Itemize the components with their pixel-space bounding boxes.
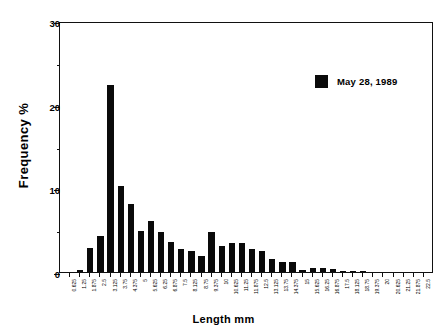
bar	[249, 249, 255, 272]
bar	[279, 262, 285, 272]
bar	[138, 231, 144, 272]
x-axis-tick-label: 22.5	[425, 279, 431, 289]
bar	[229, 243, 235, 272]
bar	[148, 221, 154, 272]
x-axis-tick-label: 15.625	[314, 279, 320, 294]
legend: May 28, 1989	[315, 75, 398, 88]
x-axis-tick	[312, 273, 313, 277]
x-axis-tick	[89, 273, 90, 277]
x-axis-tick	[352, 273, 353, 277]
x-axis-tick-label: 7.5	[182, 279, 188, 286]
x-axis-tick	[332, 273, 333, 277]
x-axis-tick-label: 0.625	[71, 279, 77, 292]
plot-area: 0102030 May 28, 1989	[59, 22, 433, 273]
bar	[208, 232, 214, 272]
x-axis-tick-label: 8.75	[203, 279, 209, 289]
x-axis-tick	[231, 273, 232, 277]
x-axis-tick	[79, 273, 80, 277]
x-axis-tick	[69, 273, 70, 277]
bar	[350, 271, 356, 272]
x-axis-tick	[403, 273, 404, 277]
x-axis-tick	[271, 273, 272, 277]
bar	[299, 270, 305, 273]
x-axis-tick-label: 11.875	[253, 279, 259, 294]
y-axis-tick-label: 20	[49, 101, 60, 112]
x-axis-tick-label: 12.5	[263, 279, 269, 289]
x-axis-tick-label: 6.875	[172, 279, 178, 292]
x-axis-tick	[342, 273, 343, 277]
y-axis-title-text: Frequency	[17, 118, 32, 187]
y-axis-tick-label: 10	[49, 185, 60, 196]
x-axis-tick-label: 1.25	[81, 279, 87, 289]
x-axis-tick-label: 18.75	[364, 279, 370, 292]
x-axis-tick	[180, 273, 181, 277]
x-axis-tick-label: 16.25	[324, 279, 330, 292]
x-axis-tick-label: 20	[384, 279, 390, 285]
x-axis-tick	[201, 273, 202, 277]
legend-swatch-icon	[315, 75, 328, 88]
x-axis-tick	[261, 273, 262, 277]
bar	[259, 251, 265, 272]
bar-series-may-28-1989	[60, 23, 432, 272]
x-axis-tick-label: 16.875	[334, 279, 340, 294]
bar	[87, 248, 93, 272]
x-axis-tick	[382, 273, 383, 277]
x-axis-tick	[322, 273, 323, 277]
x-axis-tick-label: 21.25	[405, 279, 411, 292]
x-axis-tick-label: 15	[304, 279, 310, 285]
bar	[310, 268, 316, 272]
x-axis-tick-label: 17.5	[344, 279, 350, 289]
x-axis-tick	[170, 273, 171, 277]
x-axis-tick-label: 6.25	[162, 279, 168, 289]
bar	[219, 246, 225, 272]
legend-label: May 28, 1989	[337, 76, 398, 87]
x-axis-tick	[393, 273, 394, 277]
x-axis-tick	[413, 273, 414, 277]
x-axis-tick-label: 11.25	[243, 279, 249, 291]
bar	[340, 271, 346, 272]
bar	[320, 268, 326, 272]
x-axis-tick	[190, 273, 191, 277]
x-axis-tick	[241, 273, 242, 277]
bar	[330, 269, 336, 272]
x-axis-tick-label: 13.75	[283, 279, 289, 292]
bar	[168, 242, 174, 272]
bar	[269, 259, 275, 272]
x-axis-tick-label: 21.875	[415, 279, 421, 294]
x-axis-tick-label: 2.5	[101, 279, 107, 286]
bar	[239, 243, 245, 272]
x-axis-tick-label: 3.75	[122, 279, 128, 289]
bar	[289, 262, 295, 272]
x-axis-tick-label: 3.125	[112, 279, 118, 292]
bar	[97, 236, 103, 272]
x-axis-tick-label: 10	[223, 279, 229, 285]
x-axis-tick	[251, 273, 252, 277]
bar	[118, 186, 124, 272]
x-axis-tick	[130, 273, 131, 277]
bar	[188, 251, 194, 272]
x-axis-tick	[160, 273, 161, 277]
x-axis-tick	[211, 273, 212, 277]
y-axis-title: Frequency %	[2, 0, 46, 290]
y-axis-tick-label: 30	[49, 18, 60, 29]
x-axis-tick	[302, 273, 303, 277]
x-axis-tick-label: 4.375	[132, 279, 138, 292]
bar	[198, 256, 204, 272]
bar	[360, 271, 366, 272]
x-axis-tick	[362, 273, 363, 277]
bar	[77, 270, 83, 272]
x-axis-tick	[140, 273, 141, 277]
x-axis-tick-label: 10.625	[233, 279, 239, 294]
x-axis-tick	[281, 273, 282, 277]
x-axis-tick-label: 20.625	[395, 279, 401, 294]
bar	[107, 85, 113, 272]
x-axis-tick	[423, 273, 424, 277]
chart-figure: Frequency % 0102030 May 28, 1989 0.6251.…	[0, 0, 447, 336]
x-axis-tick-label: 8.125	[192, 279, 198, 292]
x-axis-tick-label: 5	[142, 279, 148, 282]
bar	[158, 232, 164, 272]
bar	[128, 204, 134, 272]
x-axis-tick-label: 1.875	[91, 279, 97, 292]
x-axis-title: Length mm	[0, 313, 447, 325]
x-axis-tick-label: 14.375	[293, 279, 299, 294]
